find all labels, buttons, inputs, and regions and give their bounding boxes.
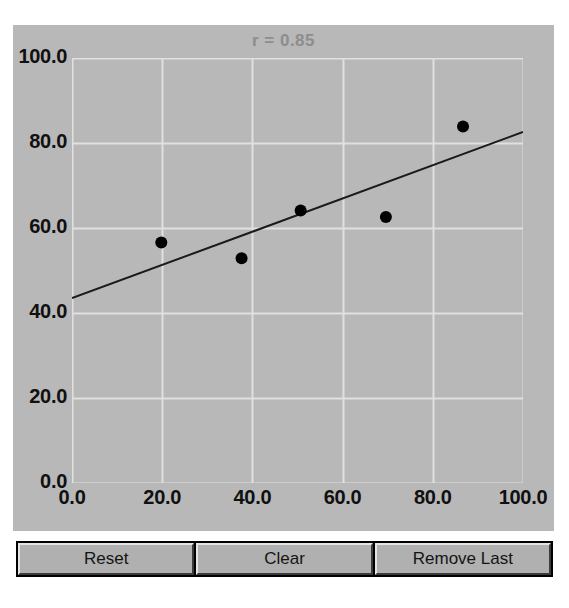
x-tick-label: 60.0 bbox=[298, 486, 388, 509]
correlation-title: r = 0.85 bbox=[13, 31, 554, 51]
y-tick-label: 60.0 bbox=[29, 215, 67, 238]
remove-last-button[interactable]: Remove Last bbox=[375, 543, 551, 575]
plot-drawing-area[interactable] bbox=[72, 58, 523, 483]
x-tick-label: 40.0 bbox=[207, 486, 297, 509]
gridlines bbox=[72, 58, 523, 483]
x-tick-label: 0.0 bbox=[27, 486, 117, 509]
plot-svg bbox=[72, 58, 523, 483]
y-tick-label: 20.0 bbox=[29, 385, 67, 408]
toolbar: Reset Clear Remove Last bbox=[16, 541, 553, 577]
remove-last-button-label: Remove Last bbox=[413, 549, 513, 569]
application-window: r = 0.85 0.020.040.060.080.0100.0 0.020.… bbox=[0, 0, 569, 608]
y-tick-label: 100.0 bbox=[18, 45, 67, 68]
x-tick-label: 100.0 bbox=[478, 486, 554, 509]
y-tick-label: 80.0 bbox=[29, 130, 67, 153]
data-points bbox=[155, 120, 469, 264]
x-tick-label: 20.0 bbox=[117, 486, 207, 509]
scatter-plot-panel[interactable]: r = 0.85 0.020.040.060.080.0100.0 0.020.… bbox=[13, 25, 554, 531]
clear-button-label: Clear bbox=[264, 549, 305, 569]
y-tick-label: 40.0 bbox=[29, 300, 67, 323]
reset-button-label: Reset bbox=[84, 549, 128, 569]
x-tick-label: 80.0 bbox=[388, 486, 478, 509]
clear-button[interactable]: Clear bbox=[196, 543, 372, 575]
reset-button[interactable]: Reset bbox=[18, 543, 194, 575]
